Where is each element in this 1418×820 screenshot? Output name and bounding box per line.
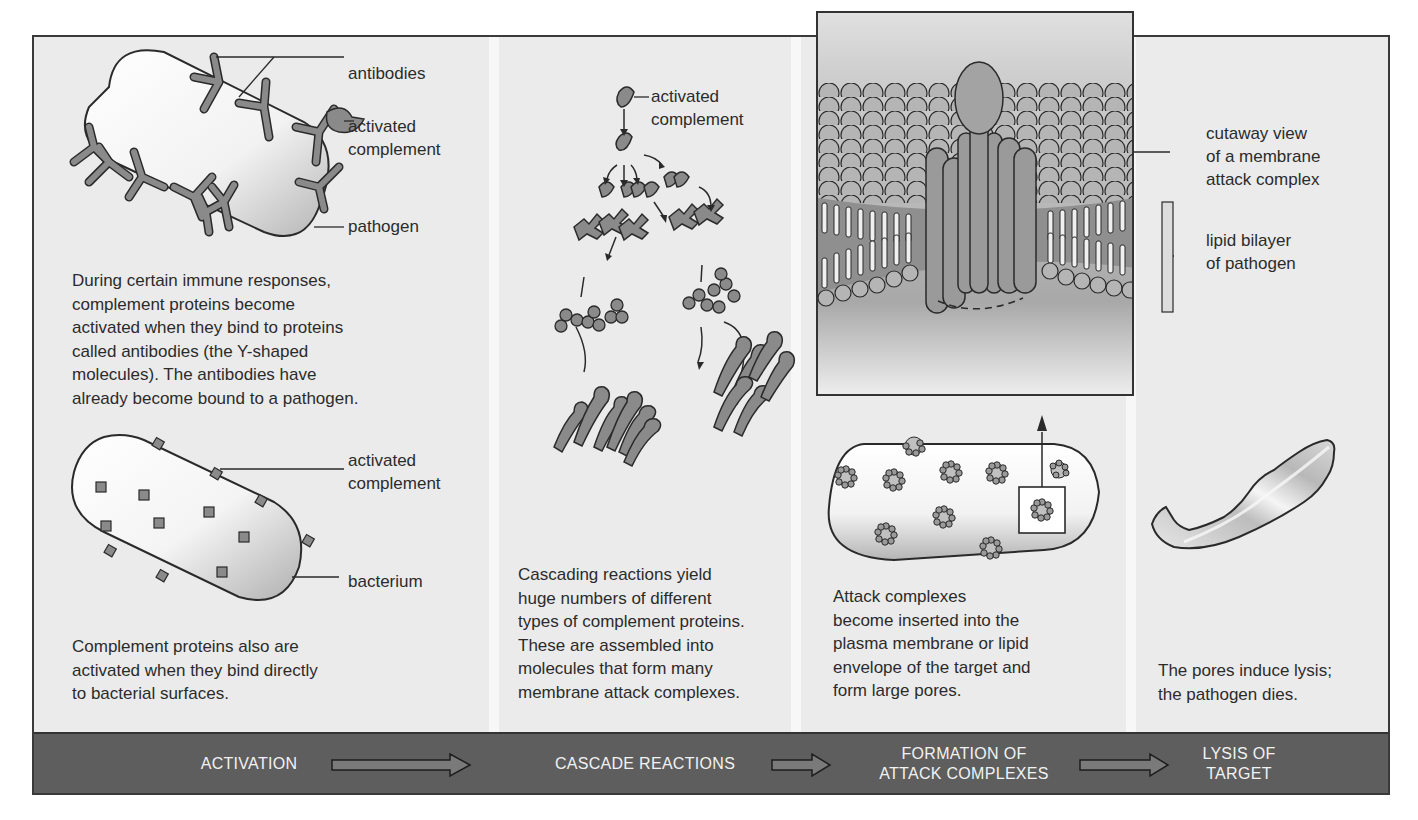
double-arrow-icon (1080, 753, 1170, 777)
cutaway-membrane-attack-complex-inset (816, 11, 1134, 396)
lipid-bilayer-bracket (1134, 0, 1174, 300)
stage-bar: ACTIVATION CASCADE REACTIONS FORMATION O… (34, 732, 1388, 793)
label-bacterium: bacterium (348, 570, 423, 593)
caption-direct-activation: Complement proteins also are activated w… (72, 635, 318, 706)
stage-activation: ACTIVATION (184, 754, 314, 774)
label-cutaway-view: cutaway view of a membrane attack comple… (1206, 122, 1320, 191)
cascade-reaction-illustration (499, 37, 799, 457)
caption-formation: Attack complexes become inserted into th… (833, 585, 1031, 703)
label-activated-complement-cascade: activated complement (651, 85, 744, 131)
stage-cascade-reactions: CASCADE REACTIONS (530, 754, 760, 774)
double-arrow-icon (332, 753, 472, 777)
pore-target-cell-illustration (804, 432, 1134, 592)
stage-lysis-of-target: LYSIS OF TARGET (1174, 744, 1304, 784)
lysed-pathogen-illustration (1144, 432, 1404, 632)
stage-formation-of-attack-complexes: FORMATION OF ATTACK COMPLEXES (864, 744, 1064, 784)
diagram-frame: antibodies activated complement pathogen… (32, 35, 1390, 795)
label-antibodies: antibodies (348, 62, 426, 85)
caption-antibody-activation: During certain immune responses, complem… (72, 269, 358, 410)
label-activated-complement: activated complement (348, 115, 441, 161)
double-arrow-icon (772, 753, 832, 777)
label-pathogen: pathogen (348, 215, 419, 238)
label-activated-complement-bacterium: activated complement (348, 449, 441, 495)
caption-lysis: The pores induce lysis; the pathogen die… (1158, 659, 1332, 706)
arrow-up-icon (1032, 415, 1052, 435)
caption-cascade: Cascading reactions yield huge numbers o… (518, 563, 745, 704)
label-lipid-bilayer: lipid bilayer of pathogen (1206, 229, 1296, 275)
